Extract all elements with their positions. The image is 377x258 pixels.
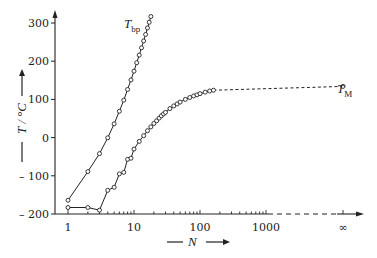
series-line (68, 17, 151, 201)
data-point-marker (122, 170, 126, 174)
axes (53, 10, 365, 217)
series-extrapolation-line (213, 86, 343, 90)
data-point-marker (163, 110, 167, 114)
data-point-marker (142, 134, 146, 138)
x-axis-title: N (167, 234, 230, 249)
data-point-marker (145, 26, 149, 30)
data-point-marker (135, 61, 139, 65)
data-point-marker (178, 100, 182, 104)
data-point-marker (145, 129, 149, 133)
y-tick-label: – 200 (19, 208, 49, 221)
data-point-marker (66, 206, 70, 210)
data-point-marker (137, 53, 141, 57)
y-tick-label: 300 (28, 17, 49, 30)
arrow-up-icon (19, 69, 25, 76)
data-point-marker (211, 88, 215, 92)
data-point-marker (140, 46, 144, 50)
data-point-marker (66, 198, 70, 202)
x-tick-label: 1 (65, 221, 72, 234)
series-label-tm-sub: M (344, 89, 352, 99)
data-point-marker (168, 107, 172, 111)
data-point-marker (149, 125, 153, 129)
chart: 3002001000– 100– 2001101001000∞ Tbp TM T… (0, 0, 377, 258)
data-point-marker (137, 139, 141, 143)
y-tick-label: – 100 (19, 170, 49, 183)
data-point-marker (86, 206, 90, 210)
data-point-marker (86, 170, 90, 174)
series-line (68, 90, 213, 210)
x-axis-arrow-icon (356, 212, 364, 217)
data-point-marker (149, 15, 153, 19)
y-axis-title-text: T / °C (14, 103, 29, 134)
x-tick-label: 100 (190, 221, 211, 234)
x-tick-label: ∞ (338, 221, 347, 234)
x-tick-label: 10 (127, 221, 141, 234)
series-label-tbp: Tbp (124, 16, 141, 34)
x-axis-title-text: N (187, 234, 198, 249)
data-point-marker (132, 147, 136, 151)
series-label-tbp-sub: bp (131, 24, 141, 34)
data-point-marker (147, 20, 151, 24)
data-point-marker (106, 188, 110, 192)
data-point-marker (129, 78, 133, 82)
arrow-right-icon (223, 239, 230, 245)
data-point-marker (183, 97, 187, 101)
data-point-marker (126, 87, 130, 91)
tick-marks (51, 23, 343, 214)
data-point-marker (203, 90, 207, 94)
data-point-marker (112, 185, 116, 189)
data-point-marker (144, 32, 148, 36)
data-point-marker (208, 89, 212, 93)
data-point-marker (142, 39, 146, 43)
data-point-marker (117, 109, 121, 113)
series-tm (66, 84, 345, 212)
data-point-marker (97, 208, 101, 212)
x-tick-label: 1000 (252, 221, 280, 234)
data-point-marker (97, 152, 101, 156)
series-tbp (66, 15, 153, 203)
data-point-marker (129, 156, 133, 160)
series-layer (66, 15, 345, 213)
data-point-marker (122, 98, 126, 102)
y-tick-label: 100 (28, 93, 49, 106)
data-point-marker (112, 122, 116, 126)
data-point-marker (198, 92, 202, 96)
y-tick-label: 0 (42, 132, 49, 145)
y-axis-title: T / °C (14, 69, 29, 162)
y-tick-label: 200 (28, 55, 49, 68)
series-label-tm: TM (337, 81, 352, 99)
data-point-marker (132, 69, 136, 73)
data-point-marker (117, 172, 121, 176)
data-point-marker (106, 136, 110, 140)
y-axis-arrow-icon (53, 10, 58, 18)
